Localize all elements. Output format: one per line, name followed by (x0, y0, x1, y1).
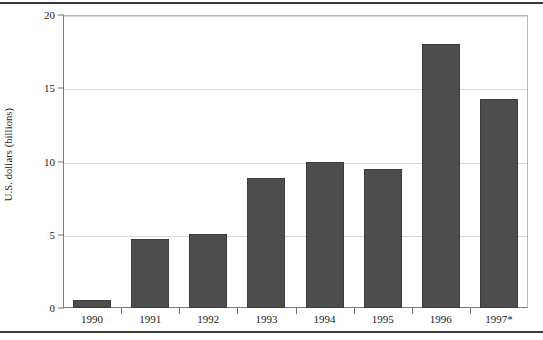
bar (73, 300, 111, 308)
gridline (64, 16, 527, 17)
bar (189, 234, 227, 308)
x-axis-tick-mark (354, 308, 355, 314)
bar (480, 99, 518, 308)
y-axis-tick-mark (58, 15, 64, 16)
y-axis-title-text: U.S. dollars (billions) (4, 107, 15, 200)
bar (364, 169, 402, 308)
x-axis-tick-mark (470, 308, 471, 314)
x-axis-tick-label: 1993 (255, 313, 277, 325)
x-axis-tick-label: 1995 (372, 313, 394, 325)
y-axis-tick-mark (58, 88, 64, 89)
bar (422, 44, 460, 308)
bar (131, 239, 169, 308)
x-axis-tick-label: 1990 (81, 313, 103, 325)
x-axis-tick-label: 1991 (139, 313, 161, 325)
y-axis-tick-mark (58, 161, 64, 162)
x-axis-tick-label: 1996 (430, 313, 452, 325)
bar (247, 178, 285, 308)
x-axis-tick-mark (179, 308, 180, 314)
x-axis-tick-mark (121, 308, 122, 314)
x-axis-tick-mark (412, 308, 413, 314)
y-axis-tick-mark (58, 234, 64, 235)
x-axis-tick-mark (237, 308, 238, 314)
x-axis-tick-label: 1992 (197, 313, 219, 325)
y-axis-tick-label: 15 (15, 82, 60, 94)
bar (306, 162, 344, 309)
x-axis-tick-mark (296, 308, 297, 314)
x-axis-tick-label: 1997* (485, 313, 513, 325)
y-axis-tick-label: 0 (15, 302, 60, 314)
y-axis-tick-label: 10 (15, 156, 60, 168)
x-axis-tick-label: 1994 (314, 313, 336, 325)
bottom-divider-rule (0, 331, 543, 333)
y-axis-tick-mark (58, 308, 64, 309)
y-axis-title: U.S. dollars (billions) (0, 0, 18, 308)
chart-figure: U.S. dollars (billions) 05101520 1990199… (0, 0, 543, 340)
y-axis-tick-label: 20 (15, 9, 60, 21)
top-divider-rule (0, 2, 543, 4)
y-axis-tick-label: 5 (15, 229, 60, 241)
